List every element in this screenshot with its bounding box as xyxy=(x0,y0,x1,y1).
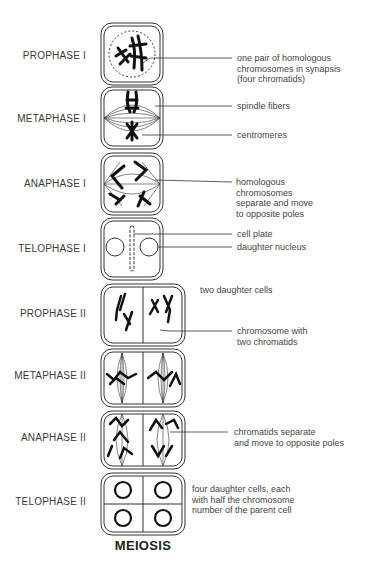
note-spindle-fibers: spindle fibers xyxy=(237,101,290,112)
chromosomes-icon xyxy=(126,92,138,140)
chromosomes-icon xyxy=(116,294,172,330)
cell-prophase-1 xyxy=(101,23,163,85)
cell-plate-icon xyxy=(130,226,134,271)
cell-illustrations xyxy=(0,0,366,575)
daughter-cell-nucleus-icon xyxy=(115,510,131,526)
daughter-cell-nucleus-icon xyxy=(155,482,171,498)
note-centromeres: centromeres xyxy=(237,130,287,141)
note-chromosome-two-chromatids: chromosome with two chromatids xyxy=(237,326,308,347)
cell-telophase-2 xyxy=(101,473,185,535)
cell-prophase-2 xyxy=(101,284,185,346)
cell-metaphase-1 xyxy=(101,87,163,149)
cell-metaphase-2 xyxy=(101,349,185,407)
daughter-nucleus-icon xyxy=(140,238,158,256)
note-two-daughter-cells: two daughter cells xyxy=(200,285,273,296)
cell-telophase-1 xyxy=(101,218,163,280)
note-synapsis: one pair of homologous chromosomes in sy… xyxy=(237,53,341,85)
spindle-fibers-icon xyxy=(104,162,160,206)
note-chromatids-separate: chromatids separate and move to opposite… xyxy=(234,427,344,448)
meiosis-diagram: PROPHASE I METAPHASE I ANAPHASE I TELOPH… xyxy=(0,0,366,575)
note-four-daughter-cells: four daughter cells, each with half the … xyxy=(192,484,295,516)
note-daughter-nucleus: daughter nucleus xyxy=(237,242,306,253)
chromosome-pair-icon xyxy=(116,36,146,70)
cell-anaphase-1 xyxy=(101,153,163,215)
note-cell-plate: cell plate xyxy=(237,229,273,240)
diagram-title: MEIOSIS xyxy=(101,538,185,553)
daughter-nucleus-icon xyxy=(106,238,124,256)
daughter-cell-nucleus-icon xyxy=(155,510,171,526)
cell-anaphase-2 xyxy=(101,411,185,469)
leader-lines xyxy=(134,58,232,432)
note-homologous-separate: homologous chromosomes separate and move… xyxy=(236,177,313,219)
daughter-cell-nucleus-icon xyxy=(115,482,131,498)
